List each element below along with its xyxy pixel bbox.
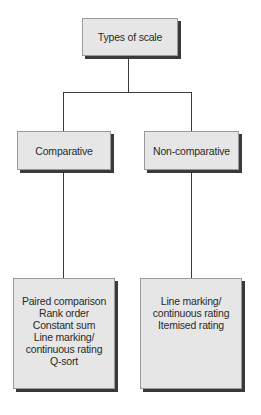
root-down-connector bbox=[128, 55, 129, 92]
leaf-item: Line marking/ bbox=[141, 295, 241, 307]
leaf-item: continuous rating bbox=[141, 307, 241, 319]
branch-horizontal-connector bbox=[63, 92, 192, 93]
root-node-types-of-scale: Types of scale bbox=[82, 18, 178, 56]
leaf-node-comparative-methods: Paired comparison Rank order Constant su… bbox=[13, 278, 115, 389]
leaf-item: Rank order bbox=[14, 307, 114, 319]
right-branch-connector bbox=[191, 92, 192, 131]
leaf-item: Q-sort bbox=[14, 355, 114, 367]
branch-node-label: Non-comparative bbox=[153, 145, 230, 157]
right-leaf-connector bbox=[191, 170, 192, 278]
branch-node-comparative: Comparative bbox=[17, 131, 111, 170]
left-leaf-connector bbox=[63, 170, 64, 278]
leaf-item: Line marking/ bbox=[14, 331, 114, 343]
leaf-node-non-comparative-methods: Line marking/ continuous rating Itemised… bbox=[140, 278, 242, 389]
branch-node-label: Comparative bbox=[35, 145, 92, 157]
left-branch-connector bbox=[63, 92, 64, 131]
root-node-label: Types of scale bbox=[98, 31, 162, 43]
leaf-item: continuous rating bbox=[14, 343, 114, 355]
leaf-item: Itemised rating bbox=[141, 319, 241, 331]
leaf-item: Constant sum bbox=[14, 319, 114, 331]
leaf-item: Paired comparison bbox=[14, 295, 114, 307]
branch-node-non-comparative: Non-comparative bbox=[144, 131, 239, 170]
